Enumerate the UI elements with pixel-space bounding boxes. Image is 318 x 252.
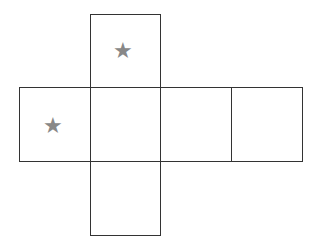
star-icon: ★ [43, 115, 63, 137]
face-bottom [90, 161, 161, 236]
star-icon: ★ [113, 40, 133, 62]
face-left: ★ [19, 87, 91, 162]
face-right [160, 87, 232, 162]
face-center [90, 87, 161, 162]
face-far-right [231, 87, 303, 162]
face-top: ★ [90, 14, 161, 88]
